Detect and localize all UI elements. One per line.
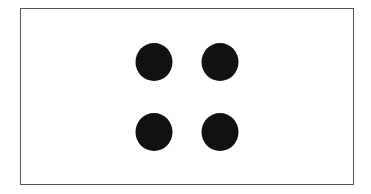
rectangle-frame: [20, 8, 354, 185]
dot-r2-c2: [202, 113, 239, 151]
dot-r1-c2: [202, 43, 239, 81]
dot-r1-c1: [136, 43, 173, 81]
diagram-canvas: [0, 0, 371, 194]
dot-r2-c1: [136, 113, 173, 151]
